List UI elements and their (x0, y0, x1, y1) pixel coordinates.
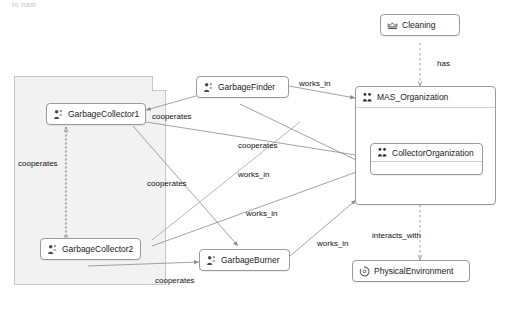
node-garbage-collector-2[interactable]: GarbageCollector2 (40, 238, 141, 260)
node-label: CollectorOrganization (392, 148, 474, 158)
node-cleaning[interactable]: Cleaning (380, 14, 460, 36)
node-label: Cleaning (402, 21, 436, 30)
diagram-canvas: to nam (0, 0, 508, 312)
node-garbage-finder[interactable]: GarbageFinder (196, 76, 289, 98)
edge-label-cooperates-bottom: cooperates (155, 277, 195, 285)
edge-label-works-in-collector2: works_in (246, 210, 278, 218)
edge-label-cooperates-finder-collector1: cooperates (152, 113, 192, 121)
node-label: GarbageFinder (218, 83, 275, 92)
node-label: GarbageBurner (221, 256, 280, 265)
edge-label-works-in-collector1: works_in (238, 171, 270, 179)
agent-icon (203, 82, 214, 93)
edge-label-cooperates-left: cooperates (18, 160, 58, 168)
node-label: GarbageCollector1 (68, 110, 139, 119)
collector-organization-header: CollectorOrganization (371, 144, 482, 162)
edge-label-cooperates-center: cooperates (238, 142, 278, 150)
node-label: PhysicalEnvironment (374, 267, 453, 276)
agent-icon (47, 244, 58, 255)
node-garbage-burner[interactable]: GarbageBurner (199, 249, 290, 271)
node-collector-organization[interactable]: CollectorOrganization (370, 143, 483, 175)
group-box-fold-corner (152, 76, 167, 91)
node-label: GarbageCollector2 (62, 245, 133, 254)
edge-label-has: has (437, 60, 450, 68)
node-garbage-collector-1[interactable]: GarbageCollector1 (46, 103, 146, 125)
edge-label-cooperates-mid: cooperates (147, 180, 187, 188)
environment-icon (359, 266, 370, 277)
edge-label-works-in-burner: works_in (317, 240, 349, 248)
agent-icon (206, 255, 217, 266)
edge-label-interacts-with: interacts_with (372, 232, 421, 240)
node-physical-environment[interactable]: PhysicalEnvironment (352, 260, 470, 282)
organization-icon (377, 147, 388, 158)
organization-icon (362, 92, 373, 103)
mas-organization-header: MAS_Organization (356, 87, 495, 108)
node-label: MAS_Organization (377, 92, 448, 102)
agent-icon (53, 109, 64, 120)
clipped-header-text: to nam (12, 1, 36, 8)
edge-label-works-in-finder: works_in (299, 80, 331, 88)
goal-icon (387, 20, 398, 31)
node-mas-organization[interactable]: MAS_Organization CollectorOrganization (355, 86, 496, 205)
